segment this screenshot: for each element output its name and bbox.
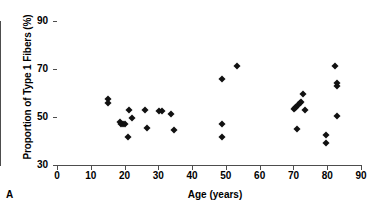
x-tick-label: 10	[76, 171, 106, 181]
panel-letter: A	[6, 189, 13, 200]
x-tick-label: 0	[42, 171, 72, 181]
scatter-plot-figure: Proportion of Type 1 Fibers (%) 30507090…	[0, 0, 378, 215]
x-axis-title: Age (years)	[140, 189, 290, 200]
x-tick-label: 80	[312, 171, 342, 181]
y-tick-label: 70	[18, 64, 48, 74]
plot-area	[57, 21, 361, 165]
x-tick-label: 50	[211, 171, 241, 181]
y-axis-title: Proportion of Type 1 Fibers (%)	[23, 7, 33, 167]
y-tick-label: 90	[18, 16, 48, 26]
x-tick-label: 90	[346, 171, 376, 181]
x-tick-label: 60	[245, 171, 275, 181]
x-tick-label: 40	[177, 171, 207, 181]
y-axis-line	[0, 21, 1, 166]
y-tick-label: 30	[18, 160, 48, 170]
x-tick-label: 20	[110, 171, 140, 181]
y-tick-label: 50	[18, 112, 48, 122]
x-axis-line	[57, 165, 362, 166]
x-tick-label: 30	[143, 171, 173, 181]
x-tick-label: 70	[278, 171, 308, 181]
